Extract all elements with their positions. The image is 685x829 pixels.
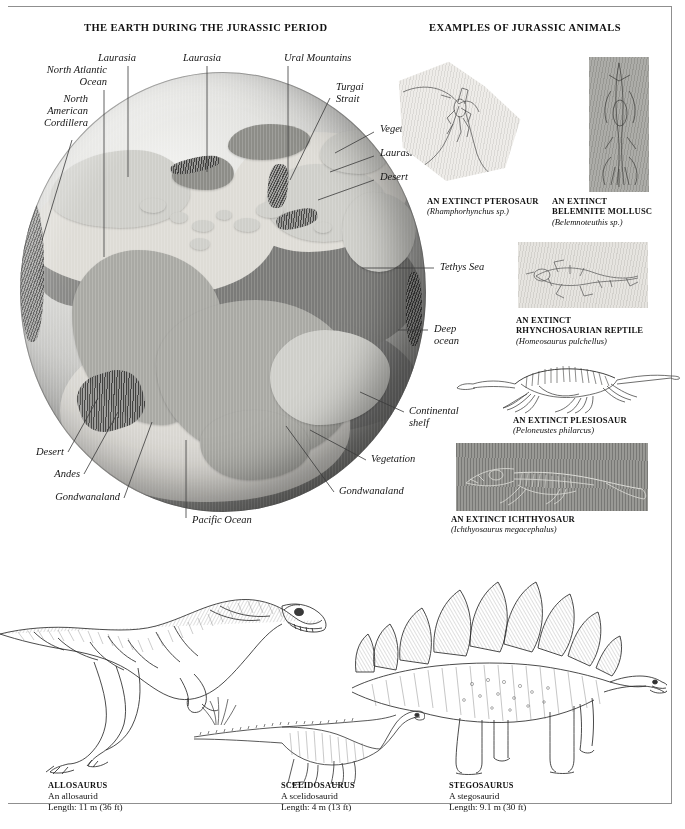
globe-label-north-atlantic-ocean-line1: North Atlantic bbox=[33, 64, 107, 76]
section-title-jurassic-animals: EXAMPLES OF JURASSIC ANIMALS bbox=[429, 22, 621, 33]
globe-label-continental-shelf-line2: shelf bbox=[409, 417, 429, 429]
plesiosaur-skeleton-drawing bbox=[455, 352, 681, 414]
pterosaur-caption: AN EXTINCT PTEROSAUR (Rhamphorhynchus sp… bbox=[427, 196, 547, 217]
stegosaurus-drawing bbox=[352, 560, 667, 775]
globe-label-ural-mountains: Ural Mountains bbox=[284, 52, 351, 64]
globe-outline bbox=[20, 72, 426, 512]
plesiosaur-caption-name: AN EXTINCT PLESIOSAUR bbox=[513, 415, 673, 425]
pterosaur-caption-species: (Rhamphorhynchus sp.) bbox=[427, 206, 547, 216]
section-title-earth-jurassic: THE EARTH DURING THE JURASSIC PERIOD bbox=[84, 22, 327, 33]
globe-label-turgai-strait-line1: Turgai bbox=[336, 81, 364, 93]
pterosaur-caption-name: AN EXTINCT PTEROSAUR bbox=[427, 196, 547, 206]
allosaurus-caption: ALLOSAURUS An allosaurid Length: 11 m (3… bbox=[48, 780, 123, 814]
globe-label-gondwanaland-se: Gondwanaland bbox=[339, 485, 404, 497]
globe-label-pacific-ocean: Pacific Ocean bbox=[192, 514, 252, 526]
globe-label-north-american-cordillera-line2: American bbox=[20, 105, 88, 117]
rhynchosaur-fossil-plate bbox=[518, 242, 648, 308]
globe-label-laurasia-2: Laurasia bbox=[183, 52, 221, 64]
ichthyosaur-caption-name: AN EXTINCT ICHTHYOSAUR bbox=[451, 514, 621, 524]
allosaurus-length: Length: 11 m (36 ft) bbox=[48, 802, 123, 813]
ichthyosaur-fossil-plate bbox=[456, 443, 648, 511]
globe-label-deep-ocean-line1: Deep bbox=[434, 323, 456, 335]
scelidosaurus-caption: SCELIDOSAURUS A scelidosaurid Length: 4 … bbox=[281, 780, 355, 814]
jurassic-earth-globe bbox=[20, 72, 426, 512]
plesiosaur-caption-species: (Peloneustes philarcus) bbox=[513, 425, 673, 435]
stegosaurus-name: STEGOSAURUS bbox=[449, 780, 526, 791]
rhynchosaur-caption: AN EXTINCT RHYNCHOSAURIAN REPTILE (Homeo… bbox=[516, 315, 666, 346]
globe-label-north-american-cordillera-line3: Cordillera bbox=[20, 117, 88, 129]
scelidosaurus-length: Length: 4 m (13 ft) bbox=[281, 802, 355, 813]
globe-label-andes: Andes bbox=[18, 468, 80, 480]
rhynchosaur-skeleton-drawing bbox=[518, 242, 648, 308]
globe-label-north-atlantic-ocean-line2: Ocean bbox=[33, 76, 107, 88]
stegosaurus-length: Length: 9.1 m (30 ft) bbox=[449, 802, 526, 813]
globe-label-vegetation-se: Vegetation bbox=[371, 453, 415, 465]
stegosaurus-group: A stegosaurid bbox=[449, 791, 526, 802]
globe-label-continental-shelf-line1: Continental bbox=[409, 405, 459, 417]
page-canvas: THE EARTH DURING THE JURASSIC PERIOD EXA… bbox=[0, 0, 685, 829]
scelidosaurus-name: SCELIDOSAURUS bbox=[281, 780, 355, 791]
belemnite-caption-name-line2: BELEMNITE MOLLUSC bbox=[552, 206, 672, 216]
rhynchosaur-caption-name-line2: RHYNCHOSAURIAN REPTILE bbox=[516, 325, 666, 335]
ichthyosaur-caption-species: (Ichthyosaurus megacephalus) bbox=[451, 524, 621, 534]
globe-label-turgai-strait-line2: Strait bbox=[336, 93, 359, 105]
page-frame-top-rule bbox=[8, 6, 672, 7]
ichthyosaur-skeleton-drawing bbox=[456, 443, 648, 511]
globe-label-tethys-sea: Tethys Sea bbox=[440, 261, 484, 273]
rhynchosaur-caption-name-line1: AN EXTINCT bbox=[516, 315, 666, 325]
belemnite-skeleton-drawing bbox=[589, 57, 649, 192]
globe-label-north-american-cordillera-line1: North bbox=[20, 93, 88, 105]
globe-label-desert-east: Desert bbox=[380, 171, 408, 183]
rhynchosaur-caption-species: (Homeosaurus pulchellus) bbox=[516, 336, 666, 346]
globe-label-laurasia-1: Laurasia bbox=[98, 52, 136, 64]
belemnite-fossil-plate bbox=[589, 57, 649, 192]
belemnite-caption-name-line1: AN EXTINCT bbox=[552, 196, 672, 206]
globe-label-desert-west: Desert bbox=[10, 446, 64, 458]
stegosaurus-illustration bbox=[352, 560, 667, 775]
scelidosaurus-group: A scelidosaurid bbox=[281, 791, 355, 802]
plesiosaur-fossil-skeleton bbox=[455, 352, 681, 414]
globe-label-deep-ocean-line2: ocean bbox=[434, 335, 459, 347]
globe-label-gondwanaland-sw: Gondwanaland bbox=[18, 491, 120, 503]
dinosaur-illustration-band: ALLOSAURUS An allosaurid Length: 11 m (3… bbox=[0, 545, 685, 803]
allosaurus-group: An allosaurid bbox=[48, 791, 123, 802]
belemnite-caption-species: (Belemnoteuthis sp.) bbox=[552, 217, 672, 227]
belemnite-caption: AN EXTINCT BELEMNITE MOLLUSC (Belemnoteu… bbox=[552, 196, 672, 227]
allosaurus-name: ALLOSAURUS bbox=[48, 780, 123, 791]
stegosaurus-caption: STEGOSAURUS A stegosaurid Length: 9.1 m … bbox=[449, 780, 526, 814]
plesiosaur-caption: AN EXTINCT PLESIOSAUR (Peloneustes phila… bbox=[513, 415, 673, 436]
ichthyosaur-caption: AN EXTINCT ICHTHYOSAUR (Ichthyosaurus me… bbox=[451, 514, 621, 535]
